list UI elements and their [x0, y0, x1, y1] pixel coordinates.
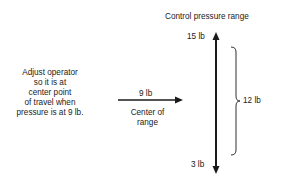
min-pressure-label: 3 lb: [191, 160, 204, 170]
setpoint-label: 9 lb: [139, 89, 152, 99]
span-label: 12 lb: [243, 96, 261, 106]
diagram-title: Control pressure range: [165, 12, 249, 22]
span-brace: [231, 47, 240, 155]
instruction-text: Adjust operator so it is at center point…: [5, 68, 95, 118]
center-label-line: Center of: [120, 108, 175, 118]
instruction-line: so it is at: [5, 78, 95, 88]
instruction-line: pressure is at 9 lb.: [5, 108, 95, 118]
instruction-line: center point: [5, 88, 95, 98]
center-label-line: range: [120, 118, 175, 128]
vertical-range-arrow: [213, 32, 220, 174]
instruction-line: Adjust operator: [5, 68, 95, 78]
instruction-line: of travel when: [5, 98, 95, 108]
center-of-range-label: Center of range: [120, 108, 175, 128]
max-pressure-label: 15 lb: [187, 32, 205, 42]
